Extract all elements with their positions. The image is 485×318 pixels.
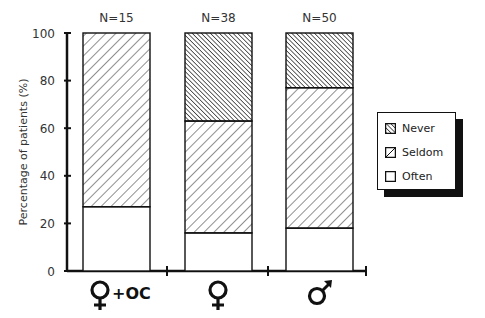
category-label <box>210 282 226 310</box>
legend-item-never: Never <box>385 120 435 136</box>
legend-item-often: Often <box>385 168 432 184</box>
y-tick-label: 80 <box>40 74 55 88</box>
bar-segment-seldom <box>185 121 252 233</box>
svg-text:+OC: +OC <box>112 284 151 303</box>
category-label <box>310 280 333 304</box>
bar-segment-never <box>286 33 353 88</box>
legend-label-never: Never <box>402 122 435 135</box>
often-swatch-icon <box>385 171 396 182</box>
y-tick-label: 60 <box>40 122 55 136</box>
bar-segment-seldom <box>286 88 353 228</box>
count-label: N=50 <box>302 11 336 25</box>
never-swatch-icon <box>385 123 396 134</box>
y-tick-label: 20 <box>40 217 55 231</box>
legend-item-seldom: Seldom <box>385 144 443 160</box>
bar-segment-often <box>83 207 150 271</box>
bar-segment-often <box>185 233 252 271</box>
category-label: +OC <box>92 282 151 310</box>
y-axis-label: Percentage of patients (%) <box>17 79 30 226</box>
bar-segment-never <box>185 33 252 121</box>
count-label: N=15 <box>99 11 133 25</box>
legend: Never Seldom Often <box>377 112 456 190</box>
bar-segment-seldom <box>83 33 150 207</box>
y-tick-label: 40 <box>40 169 55 183</box>
legend-label-seldom: Seldom <box>402 146 443 159</box>
y-tick-label: 0 <box>47 265 55 279</box>
bar-segment-often <box>286 228 353 271</box>
seldom-swatch-icon <box>385 147 396 158</box>
legend-label-often: Often <box>402 170 432 183</box>
y-tick-label: 100 <box>32 27 55 41</box>
count-label: N=38 <box>201 11 235 25</box>
bars <box>83 33 353 271</box>
